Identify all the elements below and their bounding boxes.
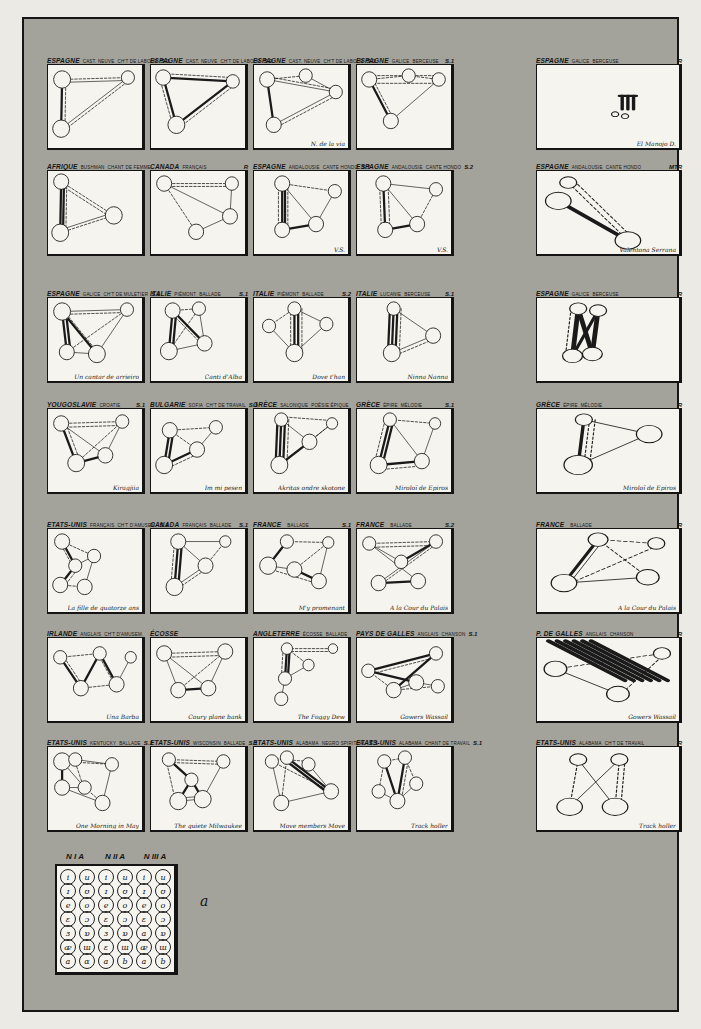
song-caption: Coury plane bank xyxy=(188,713,242,720)
diagram-panel: CANADA FRANÇAIS BALLADE S.1 xyxy=(150,515,248,614)
network-diagram xyxy=(537,638,679,721)
network-diagram xyxy=(48,65,142,148)
network-diagram xyxy=(151,747,245,830)
song-caption: A la Cour du Palais xyxy=(618,604,676,611)
song-caption: Gowers Wassail xyxy=(628,713,676,720)
panel-canvas: Canti d'Alba xyxy=(150,297,248,383)
panel-canvas xyxy=(150,170,248,256)
panel-header: ITALIE PIÉMONT BALLADE S.2 xyxy=(253,284,351,297)
panel-header: YOUGOSLAVIE CROATIE S.1 xyxy=(47,395,145,408)
network-diagram xyxy=(357,298,451,381)
song-caption: V.S. xyxy=(334,246,345,253)
song-caption: Una Barba xyxy=(106,713,139,720)
panel-canvas: Coury plane bank xyxy=(150,637,248,723)
page-background: N I AN II AN III A iuiuiuɪʊɪʊɪʊeoeoeoɛɔɛ… xyxy=(0,0,701,1029)
panel-country: ESPAGNE xyxy=(253,163,286,170)
panel-country: ESPAGNE xyxy=(47,290,80,297)
diagram-panel: AFRIQUE BUSHMAN CHANT DE FEMME xyxy=(47,157,145,256)
diagram-panel: P. DE GALLES ANGLAIS CHANSON R Gowers Wa… xyxy=(536,624,682,723)
network-diagram xyxy=(357,638,451,721)
panel-canvas: Valentona Serrana xyxy=(536,170,682,256)
panel-code: S.1 xyxy=(473,740,482,746)
diagram-panel: GRÈCE SALONIQUE POÉSIE ÉPIQUE Akritas on… xyxy=(253,395,351,494)
panel-header: ETATS-UNIS ALABAMA NEGRO SPIRITUAL S.1 xyxy=(253,733,351,746)
diagram-panel: ÉCOSSE Coury plane bank xyxy=(150,624,248,723)
network-diagram xyxy=(537,65,679,148)
network-diagram xyxy=(537,747,679,830)
panel-canvas: Miroloï de Epiros xyxy=(536,408,682,494)
panel-country: FRANCE xyxy=(253,521,281,528)
diagram-panel: CANADA FRANÇAIS R xyxy=(150,157,248,256)
panel-country: ETATS-UNIS xyxy=(47,521,87,528)
panel-country: IRLANDE xyxy=(47,630,77,637)
diagram-panel: ETATS-UNIS ALABAMA NEGRO SPIRITUAL S.1 M… xyxy=(253,733,351,832)
diagram-panel: GRÈCE ÉPIRE MÉLODIE S.1 Miroloï de Epiro… xyxy=(356,395,454,494)
song-caption: Miroloï de Epiros xyxy=(395,484,448,491)
panel-country: ETATS-UNIS xyxy=(536,739,576,746)
song-caption: Canti d'Alba xyxy=(205,373,242,380)
diagram-panel: FRANCE BALLADE R A la Cour du Palais xyxy=(536,515,682,614)
panel-country: ETATS-UNIS xyxy=(47,739,87,746)
network-diagram xyxy=(357,409,451,492)
vowel-cell: a xyxy=(98,953,114,969)
panel-canvas: Miroloï de Epiros xyxy=(356,408,454,494)
panel-country: ETATS-UNIS xyxy=(150,739,190,746)
panel-header: ITALIE PIÉMONT BALLADE S.1 xyxy=(150,284,248,297)
panel-header: ESPAGNE CAST. NEUVE CH'T DE LABOUR S.3 xyxy=(253,51,351,64)
panel-header: ITALIE LUCANIE BERCEUSE S.1 xyxy=(356,284,454,297)
panel-header: ESPAGNE ANDALOUSIE CANTE HONDO S.1 xyxy=(253,157,351,170)
panel-code: S.2 xyxy=(464,164,473,170)
figure-label: a xyxy=(200,893,208,909)
vowel-cell: b xyxy=(117,953,133,969)
panel-country: GRÈCE xyxy=(356,401,380,408)
song-caption: Valentona Serrana xyxy=(620,246,676,253)
network-diagram xyxy=(357,171,451,254)
song-caption: Ninna Nanna xyxy=(407,373,448,380)
diagram-panel: ITALIE PIÉMONT BALLADE S.1 Canti d'Alba xyxy=(150,284,248,383)
network-diagram xyxy=(254,529,348,612)
panel-canvas: Track holler xyxy=(356,746,454,832)
panel-country: CANADA xyxy=(150,163,179,170)
diagram-panel: ETATS-UNIS KENTUCKY BALLADE S.1 One Morn… xyxy=(47,733,145,832)
panel-country: YOUGOSLAVIE xyxy=(47,401,96,408)
panel-country: FRANCE xyxy=(356,521,384,528)
panel-header: ESPAGNE CAST. NEUVE CH'T DE LABOUR S.2 xyxy=(150,51,248,64)
vowel-matrix: N I AN II AN III A iuiuiuɪʊɪʊɪʊeoeoeoɛɔɛ… xyxy=(55,852,178,975)
network-diagram xyxy=(151,529,245,612)
network-diagram xyxy=(151,409,245,492)
panel-header: CANADA FRANÇAIS BALLADE S.1 xyxy=(150,515,248,528)
diagram-panel: FRANCE BALLADE S.2 A la Cour du Palais xyxy=(356,515,454,614)
song-caption: Gowers Wassail xyxy=(400,713,448,720)
panel-canvas xyxy=(356,64,454,150)
diagram-panel: YOUGOSLAVIE CROATIE S.1 Kiragjiia xyxy=(47,395,145,494)
panel-country: ESPAGNE xyxy=(536,57,569,64)
panel-country: FRANCE xyxy=(536,521,564,528)
diagram-panel: ITALIE LUCANIE BERCEUSE S.1 Ninna Nanna xyxy=(356,284,454,383)
panel-canvas: A la Cour du Palais xyxy=(536,528,682,614)
diagram-panel: ESPAGNE ANDALOUSIE CANTE HONDO MTR Valen… xyxy=(536,157,682,256)
panel-canvas xyxy=(150,64,248,150)
panel-canvas: Kiragjiia xyxy=(47,408,145,494)
network-diagram xyxy=(357,529,451,612)
panel-canvas: V.S. xyxy=(253,170,351,256)
panel-header: ESPAGNE GALICE BERCEUSE S.1 xyxy=(356,51,454,64)
network-diagram xyxy=(357,747,451,830)
panel-header: ESPAGNE CAST. NEUVE CH'T DE LABOUR S.1 xyxy=(47,51,145,64)
song-caption: The Foggy Dew xyxy=(298,713,345,720)
panel-country: AFRIQUE xyxy=(47,163,78,170)
network-diagram xyxy=(537,171,679,254)
song-caption: Akritas ondre skotone xyxy=(278,484,345,491)
vowel-matrix-grid: iuiuiuɪʊɪʊɪʊeoeoeoɛɔɛɔɛɔɜɒɜɒaɒæɯɛɯæɯaɑab… xyxy=(55,864,178,975)
panel-canvas: Un cantar de arrieiro xyxy=(47,297,145,383)
network-diagram xyxy=(48,409,142,492)
panel-canvas: Im mi pesen xyxy=(150,408,248,494)
diagram-panel: ESPAGNE ANDALOUSIE CANTE HONDO S.2 V.S. xyxy=(356,157,454,256)
diagram-panel: ESPAGNE CAST. NEUVE CH'T DE LABOUR S.1 xyxy=(47,51,145,150)
panel-header: ETATS-UNIS ALABAMA CH'T DE TRAVAIL R xyxy=(536,733,682,746)
panel-country: ESPAGNE xyxy=(47,57,80,64)
panel-header: ESPAGNE GALICE BERCEUSE R xyxy=(536,51,682,64)
song-caption: La fille de quatorze ans xyxy=(68,604,139,611)
panel-country: GRÈCE xyxy=(253,401,277,408)
panel-country: ESPAGNE xyxy=(356,163,389,170)
panel-header: GRÈCE ÉPIRE MÉLODIE R xyxy=(536,395,682,408)
